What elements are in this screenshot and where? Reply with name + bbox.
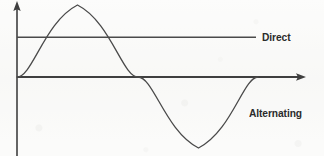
x-axis — [17, 73, 306, 80]
y-axis — [13, 1, 20, 156]
series-label-alternating: Alternating — [249, 108, 302, 119]
waveform-plot — [0, 0, 324, 156]
waveform-figure: Direct Alternating — [0, 0, 324, 156]
series-label-direct: Direct — [262, 32, 290, 43]
